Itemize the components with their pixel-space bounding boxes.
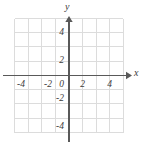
x-tick-label-origin: 0 [57, 80, 66, 90]
y-tick-label: 2 [57, 56, 66, 66]
y-tick-label: 4 [57, 28, 66, 38]
coordinate-plane-figure: y x -4 -2 0 2 4 4 2 -2 -4 [0, 0, 148, 146]
x-tick-label: -4 [14, 80, 28, 90]
y-axis-label: y [65, 2, 69, 12]
x-axis-arrowhead [126, 72, 132, 79]
x-tick-label: 4 [105, 80, 114, 90]
coordinate-grid-svg [0, 0, 148, 146]
x-tick-label: 2 [78, 80, 87, 90]
x-axis-label: x [134, 68, 138, 78]
y-tick-label: -2 [53, 94, 67, 104]
x-tick-label: -2 [41, 80, 55, 90]
y-tick-label: -4 [53, 122, 67, 132]
